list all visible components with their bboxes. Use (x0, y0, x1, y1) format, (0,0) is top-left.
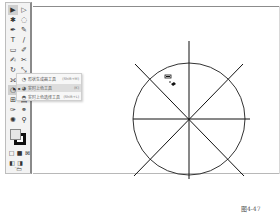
screenshot-frame: ▶ ▷ ✱ ◌ ✒ ✎ T / ▭ ✐ ✍ ✂ ↻ ⤡ ⟗ ⬚ ◔ ▦ ⊞ ▤ … (0, 0, 280, 218)
figure-caption: 图4-47 (241, 204, 260, 213)
fill-swatch[interactable] (10, 129, 21, 140)
live-paint-bucket-cursor-icon (165, 75, 176, 86)
artboard-drawing[interactable] (0, 0, 280, 218)
